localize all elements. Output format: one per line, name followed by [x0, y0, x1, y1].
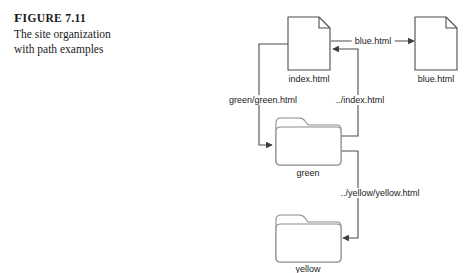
edge-label-parent-yellow-html: ../yellow/yellow.html [337, 188, 422, 198]
node-label-blue-html: blue.html [418, 74, 455, 84]
site-organization-diagram [0, 0, 471, 273]
node-label-index-html: index.html [288, 74, 329, 84]
folder-icon-green [276, 118, 341, 165]
folder-icon-yellow [276, 215, 341, 262]
document-icon-body [415, 17, 457, 70]
folder-icon-front [276, 127, 341, 165]
folder-icon-front [276, 224, 341, 262]
edge-label-blue-html: blue.html [352, 36, 395, 46]
node-label-yellow: yellow [295, 264, 320, 273]
edge-label-parent-index-html: ../index.html [333, 95, 388, 105]
edge-parent-index-html-line [333, 49, 358, 136]
edge-parent-index-html [333, 49, 358, 136]
figure-page: FIGURE 7.11 The site organization with p… [0, 0, 471, 273]
document-icon-blue-html [415, 17, 457, 70]
document-icon-body [288, 17, 330, 70]
node-label-green: green [296, 168, 319, 178]
document-icon-index-html [288, 17, 330, 70]
edge-label-green-green-html: green/green.html [226, 95, 300, 105]
